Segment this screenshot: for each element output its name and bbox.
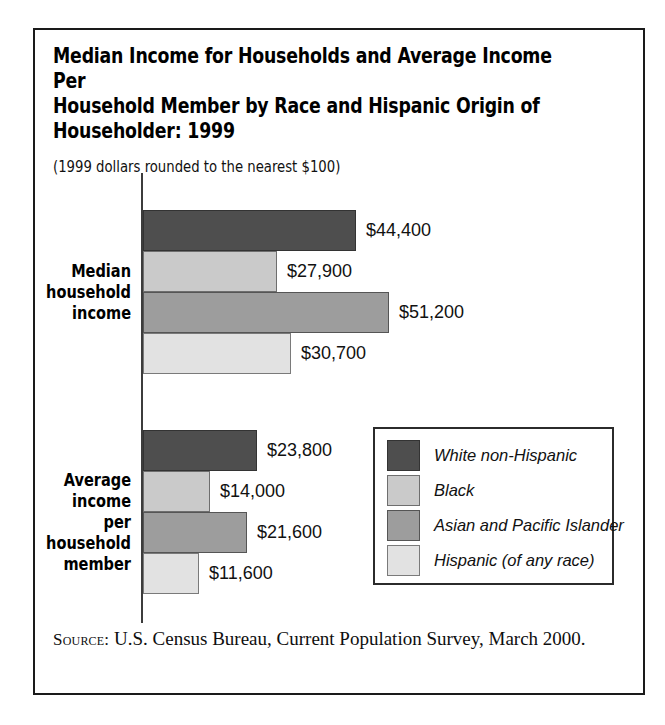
source-label: Source: <box>53 630 109 649</box>
bar-hispanic-of-any-race <box>143 333 291 374</box>
bar-value-label: $51,200 <box>399 292 464 333</box>
chart-legend: White non-HispanicBlackAsian and Pacific… <box>373 427 614 585</box>
legend-item: White non-Hispanic <box>387 439 577 472</box>
bar-value-label: $30,700 <box>301 333 366 374</box>
bar-value-label: $21,600 <box>257 512 322 553</box>
bar-value-label: $14,000 <box>220 471 285 512</box>
bar-hispanic-of-any-race <box>143 553 199 594</box>
bar-value-label: $44,400 <box>366 210 431 251</box>
legend-swatch-icon <box>387 440 420 471</box>
legend-swatch-icon <box>387 475 420 506</box>
source-text: U.S. Census Bureau, Current Population S… <box>114 628 586 649</box>
bar-white-non-hispanic <box>143 210 356 251</box>
bar-value-label: $23,800 <box>267 430 332 471</box>
legend-item: Black <box>387 474 474 507</box>
group-label-average-income-per-household-member: Average income per household member <box>40 470 131 575</box>
bar-asian-and-pacific-islander <box>143 512 247 553</box>
bar-asian-and-pacific-islander <box>143 292 389 333</box>
bar-value-label: $11,600 <box>209 553 273 594</box>
figure-frame: Median Income for Households and Average… <box>33 28 645 695</box>
group-label-median-household-income: Median household income <box>40 261 131 324</box>
legend-swatch-icon <box>387 545 420 576</box>
legend-label: White non-Hispanic <box>434 446 577 465</box>
legend-item: Hispanic (of any race) <box>387 544 594 577</box>
legend-label: Black <box>434 481 474 500</box>
bar-white-non-hispanic <box>143 430 257 471</box>
legend-label: Asian and Pacific Islander <box>434 516 624 535</box>
bar-black <box>143 471 210 512</box>
source-note: Source: U.S. Census Bureau, Current Popu… <box>53 626 619 652</box>
legend-label: Hispanic (of any race) <box>434 551 594 570</box>
chart-plot-area: $44,400$27,900$51,200$30,700$23,800$14,0… <box>35 30 643 693</box>
bar-value-label: $27,900 <box>287 251 352 292</box>
legend-item: Asian and Pacific Islander <box>387 509 624 542</box>
bar-black <box>143 251 277 292</box>
legend-swatch-icon <box>387 510 420 541</box>
